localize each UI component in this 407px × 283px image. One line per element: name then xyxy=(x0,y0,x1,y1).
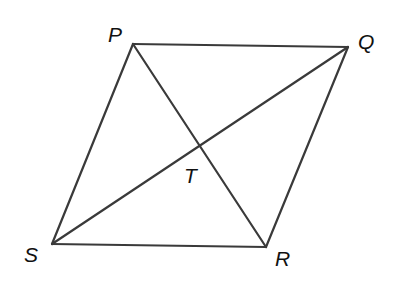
label-r: R xyxy=(275,247,290,270)
label-q: Q xyxy=(358,30,374,53)
diagonal-sq xyxy=(52,47,348,244)
label-t: T xyxy=(184,164,199,187)
side-pq xyxy=(133,44,348,47)
side-rs xyxy=(52,244,266,247)
parallelogram-diagram: P Q S R T xyxy=(0,0,407,283)
label-s: S xyxy=(24,243,38,266)
side-qr xyxy=(266,47,348,247)
label-p: P xyxy=(108,23,122,46)
side-sp xyxy=(52,44,133,244)
parallelogram-diagonals xyxy=(52,44,348,247)
